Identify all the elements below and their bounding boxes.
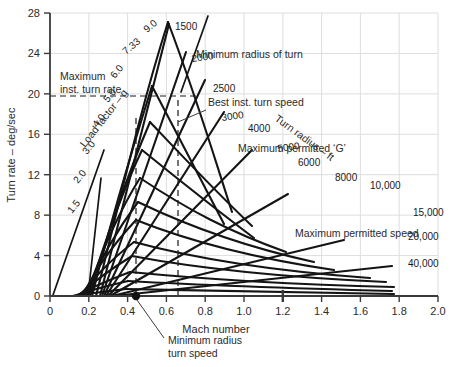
x-tick-labels: 0 0.2 0.4 0.6 0.8 1.0 1.2 1.4 1.6 1.8 2.… xyxy=(47,305,446,317)
turn-radius-label-4000: 4000 xyxy=(248,123,271,134)
max-inst-turn-rate-label-line1: Maximum xyxy=(60,70,106,82)
turn-radius-label-15000: 15,000 xyxy=(413,207,444,218)
x-tick-label: 0 xyxy=(47,305,53,317)
turn-radius-label-2500: 2500 xyxy=(213,83,236,94)
load-factor-label-9.0: 9.0 xyxy=(141,17,159,35)
turn-radius-curves xyxy=(72,22,394,296)
turn-radius-label-6000: 6000 xyxy=(298,157,321,168)
x-tick-label: 1.4 xyxy=(314,305,329,317)
x-tick-label: 1.8 xyxy=(392,305,407,317)
turn-radius-label-1500: 1500 xyxy=(175,21,198,32)
x-tick-label: 1.2 xyxy=(275,305,290,317)
minimum-radius-turn-speed-label-line2: turn speed xyxy=(168,347,218,359)
maximum-permitted-g-label: Maximum permitted ‘G’ xyxy=(238,142,346,154)
minimum-radius-turn-speed-label-line1: Minimum radius xyxy=(168,334,242,346)
y-axis-title: Turn rate – deg/sec xyxy=(5,107,17,202)
y-tick-label: 28 xyxy=(28,7,40,19)
turn-radius-label-8000: 8000 xyxy=(335,172,358,183)
y-tick-label: 16 xyxy=(28,128,40,140)
maximum-permitted-speed-label: Maximum permitted speed xyxy=(295,227,419,239)
best-inst-turn-speed-label: Best inst. turn speed xyxy=(208,96,304,108)
load-factor-label-6.0: 6.0 xyxy=(108,62,125,80)
y-tick-labels: 28 24 20 16 12 8 4 0 xyxy=(28,7,40,302)
y-tick-label: 4 xyxy=(34,250,40,262)
turn-radius-label-10000: 10,000 xyxy=(370,180,401,191)
minimum-radius-of-turn-label: Minimum radius of turn xyxy=(196,48,303,60)
x-tick-label: 0.4 xyxy=(120,305,135,317)
y-tick-label: 8 xyxy=(34,209,40,221)
turn-performance-chart: 28 24 20 16 12 8 4 0 0 0.2 0.4 0.6 0.8 1… xyxy=(0,0,459,367)
chart-figure: 28 24 20 16 12 8 4 0 0 0.2 0.4 0.6 0.8 1… xyxy=(0,0,459,367)
turn-radius-curve-3000-b xyxy=(142,150,254,238)
max-inst-turn-rate-label-line2: inst. turn rate xyxy=(60,83,121,95)
turn-radius-label-3000: 3000 xyxy=(221,109,245,123)
x-tick-label: 0.2 xyxy=(81,305,96,317)
turn-radius-label-40000: 40,000 xyxy=(408,258,439,269)
minimum-radius-turn-speed-point xyxy=(132,292,140,300)
y-tick-label: 0 xyxy=(34,290,40,302)
x-tick-label: 0.8 xyxy=(198,305,213,317)
x-tick-label: 0.6 xyxy=(159,305,174,317)
load-factor-label-1.5: 1.5 xyxy=(65,197,82,215)
y-tick-label: 20 xyxy=(28,88,40,100)
x-tick-label: 1.6 xyxy=(353,305,368,317)
x-tick-label: 2.0 xyxy=(430,305,445,317)
y-tick-label: 24 xyxy=(28,47,40,59)
y-tick-label: 12 xyxy=(28,169,40,181)
load-factor-label-2.0: 2.0 xyxy=(71,167,88,185)
turn-radius-curve-2500-b xyxy=(150,122,252,226)
x-tick-label: 1.0 xyxy=(236,305,251,317)
